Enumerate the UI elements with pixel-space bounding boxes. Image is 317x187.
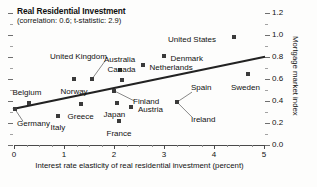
data-point-label: Australia [104,56,135,64]
data-point-marker [246,72,250,76]
data-point-marker [117,119,121,123]
data-point-marker [112,89,116,93]
data-point-label: Denmark [171,55,203,63]
data-point-marker [175,100,179,104]
data-point-label: Greece [68,113,94,121]
leader-lines-and-trendline [0,0,317,187]
data-point-label: Canada [108,66,136,74]
data-point-label: United States [168,36,216,44]
data-point-label: Austria [138,106,163,114]
data-point-marker [79,102,83,106]
data-point-label: Norway [61,88,88,96]
data-point-marker [72,77,76,81]
data-point-marker [141,63,145,67]
data-point-label: Ireland [191,116,215,124]
data-point-marker [13,107,17,111]
data-point-label: Netherlands [150,64,193,72]
data-point-marker [115,101,119,105]
data-point-marker [120,78,124,82]
scatter-chart: Real Residential Investment (correlation… [0,0,317,187]
data-point-marker [129,105,133,109]
data-point-marker [56,114,60,118]
data-point-marker [232,35,236,39]
data-point-label: Belgium [13,89,42,97]
data-point-marker [27,101,31,105]
data-point-label: Sweden [231,84,260,92]
data-point-marker [90,77,94,81]
data-point-label: United Kingdom [50,53,107,61]
data-point-label: Japan [104,111,126,119]
data-point-label: France [107,130,132,138]
data-point-marker [162,54,166,58]
data-point-label: Italy [51,124,66,132]
data-point-label: Germany [17,120,50,128]
data-point-label: Spain [191,84,211,92]
